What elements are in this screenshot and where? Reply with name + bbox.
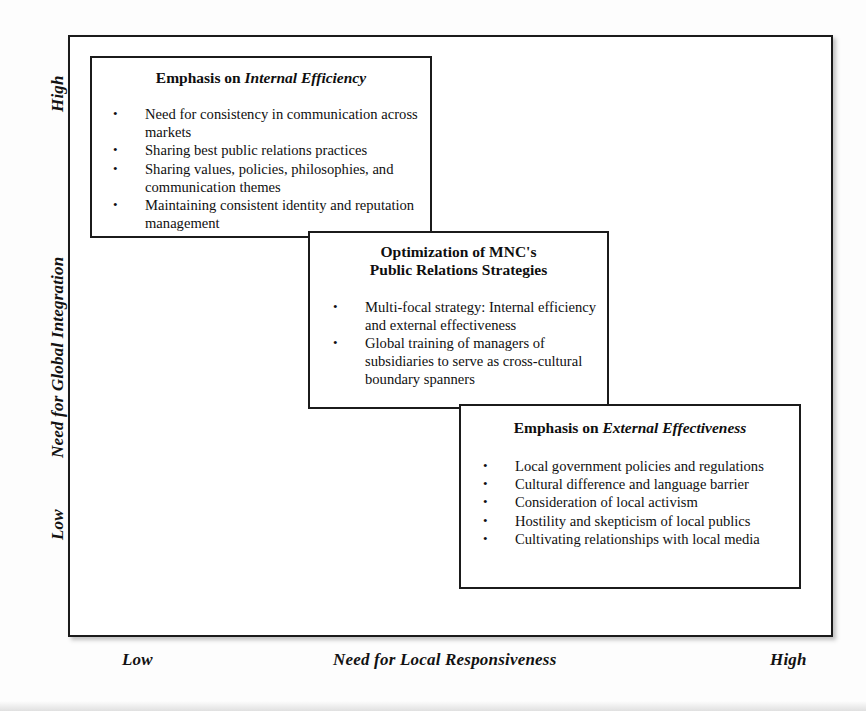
- box-optimization-list: • Multi-focal strategy: Internal efficie…: [310, 298, 607, 388]
- list-item: • Cultivating relationships with local m…: [483, 530, 799, 548]
- box-optimization-title: Optimization of MNC's Public Relations S…: [310, 233, 607, 280]
- list-item: • Sharing values, policies, philosophies…: [113, 160, 430, 196]
- bullet-icon: •: [333, 298, 338, 316]
- box-optimization: Optimization of MNC's Public Relations S…: [308, 231, 609, 409]
- x-axis-title: Need for Local Responsiveness: [333, 650, 556, 670]
- list-item-text: Hostility and skepticism of local public…: [515, 512, 799, 530]
- box-internal-efficiency-title: Emphasis on Internal Efficiency: [92, 58, 430, 87]
- y-axis-low-label: Low: [48, 509, 68, 540]
- box-external-effectiveness-title-italic: External Effectiveness: [602, 419, 746, 436]
- list-item-text: Maintaining consistent identity and repu…: [145, 196, 430, 232]
- x-axis-low-label: Low: [122, 650, 153, 670]
- list-item: • Consideration of local activism: [483, 493, 799, 511]
- list-item-text: Consideration of local activism: [515, 493, 799, 511]
- list-item: • Multi-focal strategy: Internal efficie…: [333, 298, 607, 334]
- list-item-text: Multi-focal strategy: Internal efficienc…: [365, 298, 607, 334]
- list-item-text: Global training of managers of subsidiar…: [365, 334, 607, 388]
- bullet-icon: •: [113, 196, 118, 214]
- box-optimization-title-line1: Optimization of MNC's: [310, 243, 607, 261]
- page-edge-shadow: [0, 701, 866, 711]
- box-internal-efficiency-title-plain: Emphasis on: [156, 69, 245, 86]
- list-item-text: Local government policies and regulation…: [515, 457, 799, 475]
- list-item-text: Sharing best public relations practices: [145, 141, 430, 159]
- figure-canvas: High Need for Global Integration Low Low…: [0, 0, 866, 711]
- box-external-effectiveness-title: Emphasis on External Effectiveness: [461, 406, 799, 437]
- bullet-icon: •: [483, 493, 488, 511]
- box-external-effectiveness-list: • Local government policies and regulati…: [461, 457, 799, 547]
- bullet-icon: •: [483, 475, 488, 493]
- box-internal-efficiency-title-italic: Internal Efficiency: [245, 69, 367, 86]
- bullet-icon: •: [113, 141, 118, 159]
- y-axis-high-label: High: [48, 75, 68, 112]
- list-item-text: Need for consistency in communication ac…: [145, 105, 430, 141]
- box-internal-efficiency: Emphasis on Internal Efficiency • Need f…: [90, 56, 432, 238]
- box-internal-efficiency-list: • Need for consistency in communication …: [92, 105, 430, 232]
- list-item: • Local government policies and regulati…: [483, 457, 799, 475]
- box-external-effectiveness: Emphasis on External Effectiveness • Loc…: [459, 404, 801, 589]
- list-item: • Maintaining consistent identity and re…: [113, 196, 430, 232]
- list-item: • Cultural difference and language barri…: [483, 475, 799, 493]
- list-item: • Hostility and skepticism of local publ…: [483, 512, 799, 530]
- list-item-text: Cultivating relationships with local med…: [515, 530, 799, 548]
- bullet-icon: •: [113, 105, 118, 123]
- y-axis-title: Need for Global Integration: [48, 257, 68, 458]
- box-optimization-title-line2: Public Relations Strategies: [310, 261, 607, 279]
- list-item: • Global training of managers of subsidi…: [333, 334, 607, 388]
- bullet-icon: •: [483, 512, 488, 530]
- list-item: • Sharing best public relations practice…: [113, 141, 430, 159]
- list-item: • Need for consistency in communication …: [113, 105, 430, 141]
- bullet-icon: •: [113, 160, 118, 178]
- bullet-icon: •: [483, 530, 488, 548]
- x-axis-high-label: High: [770, 650, 807, 670]
- bullet-icon: •: [333, 334, 338, 352]
- bullet-icon: •: [483, 457, 488, 475]
- list-item-text: Sharing values, policies, philosophies, …: [145, 160, 430, 196]
- list-item-text: Cultural difference and language barrier: [515, 475, 799, 493]
- box-external-effectiveness-title-plain: Emphasis on: [514, 419, 603, 436]
